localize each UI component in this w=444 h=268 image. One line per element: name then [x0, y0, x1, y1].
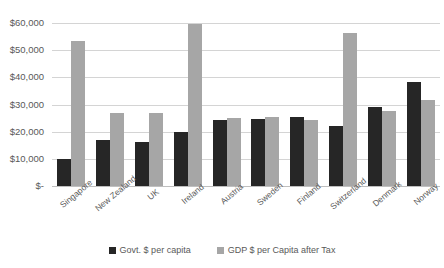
legend-label: Govt. $ per capita: [120, 246, 191, 255]
x-axis-category: Ireland: [168, 188, 207, 240]
bar: [382, 111, 396, 186]
bar: [149, 113, 163, 186]
y-axis-tick-label: $-: [36, 181, 44, 191]
x-axis-category: Austria: [207, 188, 246, 240]
y-axis: $-$10,000$20,000$30,000$40,000$50,000$60…: [0, 23, 48, 186]
y-axis-tick-label: $40,000: [10, 73, 44, 83]
bar: [174, 132, 188, 186]
legend-entry[interactable]: Govt. $ per capita: [109, 246, 191, 255]
bar-group: [91, 23, 130, 186]
bar-group: [362, 23, 401, 186]
y-axis-tick-label: $30,000: [10, 100, 44, 110]
x-axis-category: New Zealand: [91, 188, 130, 240]
x-axis-category: Sweden: [246, 188, 285, 240]
x-axis-category: Norway: [401, 188, 440, 240]
bar-chart: $-$10,000$20,000$30,000$40,000$50,000$60…: [0, 0, 444, 268]
bar-group: [168, 23, 207, 186]
bar-group: [285, 23, 324, 186]
bar-group: [401, 23, 440, 186]
bar-group: [52, 23, 91, 186]
bar: [368, 107, 382, 186]
x-axis-tick-label: UK: [146, 187, 161, 201]
bar: [71, 41, 85, 186]
x-axis: SingaporeNew ZealandUKIrelandAustriaSwed…: [52, 188, 440, 240]
bar: [227, 118, 241, 186]
x-axis-category: Singapore: [52, 188, 91, 240]
bar: [421, 100, 435, 186]
legend-label: GDP $ per Capita after Tax: [228, 246, 336, 255]
x-axis-category: Switzerland: [324, 188, 363, 240]
bar-group: [207, 23, 246, 186]
y-axis-tick-label: $60,000: [10, 18, 44, 28]
bar: [304, 120, 318, 186]
bar: [96, 140, 110, 186]
bar-group: [130, 23, 169, 186]
legend-swatch-icon: [109, 247, 116, 254]
x-axis-category: Finland: [285, 188, 324, 240]
legend-swatch-icon: [217, 247, 224, 254]
bar-group: [324, 23, 363, 186]
gridline: [52, 186, 440, 187]
bar: [343, 33, 357, 186]
y-axis-tick-label: $20,000: [10, 127, 44, 137]
y-axis-tick-label: $10,000: [10, 154, 44, 164]
bar: [265, 117, 279, 186]
x-axis-category: Denmark: [362, 188, 401, 240]
bar: [110, 113, 124, 186]
bar: [407, 82, 421, 186]
bar: [57, 159, 71, 186]
bar: [213, 120, 227, 186]
bars-layer: [52, 23, 440, 186]
bar: [329, 126, 343, 186]
y-axis-tick-label: $50,000: [10, 45, 44, 55]
chart-legend: Govt. $ per capitaGDP $ per Capita after…: [0, 246, 444, 255]
bar: [290, 117, 304, 186]
bar: [188, 24, 202, 186]
x-axis-category: UK: [130, 188, 169, 240]
bar: [251, 119, 265, 186]
legend-entry[interactable]: GDP $ per Capita after Tax: [217, 246, 336, 255]
bar-group: [246, 23, 285, 186]
